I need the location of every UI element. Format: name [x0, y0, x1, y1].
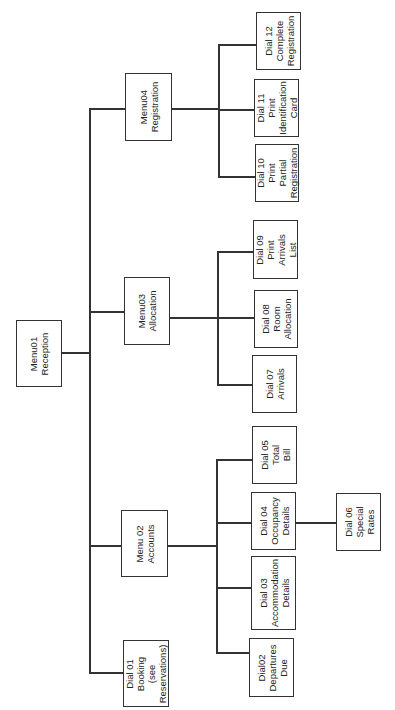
connector-dial01: [89, 672, 123, 674]
node-dial08-room-allocation: Dial 08RoomAllocation: [254, 290, 298, 348]
connector-dial10: [218, 176, 255, 178]
node-dial06-special-rates: Dial 06SpecialRates: [336, 493, 381, 551]
connector-dial07: [217, 384, 252, 386]
connector-dial08: [217, 317, 254, 319]
trunk-accounts: [216, 459, 218, 653]
connector-dial12: [218, 44, 256, 46]
connector-dial06: [296, 522, 336, 524]
connector-menu03-out: [170, 317, 217, 319]
node-menu03-allocation: Menu03Allocation: [124, 277, 170, 345]
connector-dial02: [216, 652, 249, 654]
node-dial11-print-identification-card: Dial 11PrintIdentificationCard: [254, 79, 299, 137]
connector-menu04-out: [172, 108, 218, 110]
connector-dial11: [218, 109, 254, 111]
node-menu01-reception: Menu01Reception: [16, 320, 62, 387]
connector-dial05: [216, 459, 252, 461]
connector-dial03: [216, 587, 251, 589]
node-dial05-total-bill: Dial 05TotalBill: [252, 426, 297, 484]
connector-menu02-out: [168, 545, 216, 547]
node-dial10-print-partial-registration: Dial 10PrintPartialRegistration: [255, 144, 299, 202]
connector-root: [62, 352, 89, 354]
node-dial02-departures-due: Dial02DeparturesDue: [249, 638, 294, 697]
trunk-main: [89, 108, 91, 673]
node-dial07-arrivals: Dial 07Arrivals: [252, 355, 297, 413]
node-menu04-registration: Menu04Registration: [125, 73, 172, 141]
connector-menu02: [89, 545, 121, 547]
node-dial04-occupancy-details: Dial 04OccupancyDetails: [251, 492, 296, 550]
connector-menu03: [89, 311, 124, 313]
node-menu02-accounts: Menu 02Accounts: [121, 510, 168, 577]
node-dial09-print-arrivals-list: Dial 09PrintArrivalsList: [253, 220, 298, 279]
node-dial12-complete-registration: Dial 12CompleteRegistration: [256, 12, 301, 70]
trunk-registration: [218, 44, 220, 177]
node-dial03-accommodation-details: Dial 03AccommodationDetails: [251, 556, 296, 630]
connector-menu04: [89, 108, 125, 110]
connector-dial04: [216, 522, 251, 524]
connector-dial09: [217, 251, 253, 253]
node-dial01-booking: Dial 01Booking(seeReservations): [123, 640, 169, 707]
